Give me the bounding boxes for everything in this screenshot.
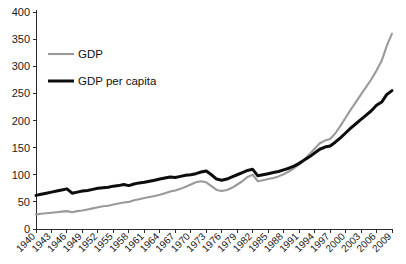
gdp-line-chart: 0501001502002503003504001940194319461949… <box>0 0 406 264</box>
y-tick-label: 400 <box>12 6 30 18</box>
y-tick-label: 150 <box>12 142 30 154</box>
y-tick-label: 200 <box>12 115 30 127</box>
x-tick-label: 2009 <box>370 230 394 254</box>
legend-label-gdp: GDP <box>78 48 103 60</box>
y-tick-label: 250 <box>12 87 30 99</box>
y-tick-label: 350 <box>12 33 30 45</box>
legend-label-gdp-per-capita: GDP per capita <box>78 75 157 87</box>
y-tick-label: 100 <box>12 169 30 181</box>
y-tick-label: 300 <box>12 60 30 72</box>
series-line-gdp <box>36 34 392 215</box>
series-line-gdp-per-capita <box>36 91 392 196</box>
y-tick-label: 50 <box>18 196 30 208</box>
chart-canvas: 0501001502002503003504001940194319461949… <box>0 0 406 264</box>
